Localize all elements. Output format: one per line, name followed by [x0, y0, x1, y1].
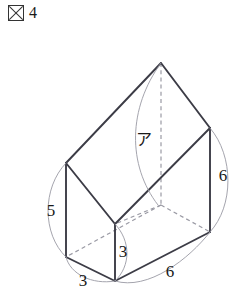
label-front-depth: 3 — [79, 271, 88, 290]
label-left-height: 5 — [47, 201, 56, 220]
figure-faces — [66, 63, 210, 281]
solid-figure-diagram: ア 5 3 3 6 6 — [0, 0, 239, 302]
figure-page: 4 — [0, 0, 239, 302]
label-front-height: 3 — [119, 242, 128, 261]
label-right-height: 6 — [219, 166, 228, 185]
label-bottom-width: 6 — [166, 262, 175, 281]
label-part-a: ア — [136, 131, 152, 148]
